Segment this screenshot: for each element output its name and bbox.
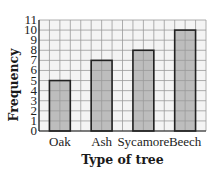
y-axis-label-text: Frequency	[6, 49, 21, 122]
x-category-label: Oak	[49, 134, 71, 149]
x-axis-categories: OakAshSycamoreBeech	[49, 134, 202, 149]
plot-area	[39, 20, 206, 131]
y-axis-ticks: 01234567891011	[24, 12, 38, 138]
y-axis-label: Frequency	[6, 50, 20, 120]
x-category-label: Sycamore	[117, 134, 169, 149]
x-axis-label: Type of tree	[39, 152, 206, 167]
y-tick-label: 11	[24, 12, 37, 27]
bar-chart: 01234567891011 OakAshSycamoreBeech	[0, 0, 216, 173]
x-category-label: Ash	[91, 134, 112, 149]
x-category-label: Beech	[169, 134, 202, 149]
